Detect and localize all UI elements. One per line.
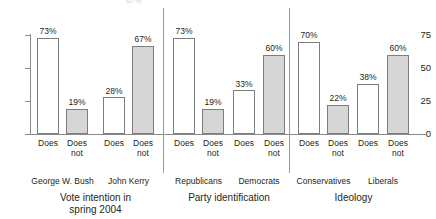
bar[interactable]: [37, 38, 59, 134]
category-label-line2: not: [55, 149, 99, 159]
bar-wrap: 73%: [37, 0, 59, 134]
y-tick-label: 75: [407, 30, 431, 40]
bar-value-label: 60%: [378, 44, 418, 53]
y-tick: [25, 68, 30, 69]
bar-wrap: 67%: [132, 0, 154, 134]
section-label-line1: Ideology: [269, 192, 436, 204]
bar-value-label: 33%: [224, 80, 264, 89]
bar-wrap: 33%: [233, 0, 255, 134]
bar-wrap: 22%: [327, 0, 349, 134]
bar-value-label: 70%: [289, 31, 329, 40]
bar-wrap: 60%: [387, 0, 409, 134]
y-tick-label: 50: [407, 63, 431, 73]
category-label-line2: not: [191, 149, 235, 159]
bar-wrap: 19%: [202, 0, 224, 134]
category-label: Doesnot: [121, 139, 165, 158]
category-label-line2: not: [252, 149, 296, 159]
bar[interactable]: [103, 97, 125, 134]
category-label-line2: not: [121, 149, 165, 159]
bar-value-label: 28%: [94, 87, 134, 96]
bar-wrap: 38%: [357, 0, 379, 134]
bar[interactable]: [202, 109, 224, 134]
bar-value-label: 38%: [348, 73, 388, 82]
group-label: Liberals: [333, 176, 433, 186]
category-label: Doesnot: [376, 139, 420, 158]
section-label-line2: spring 2004: [11, 204, 181, 216]
bar-wrap: 28%: [103, 0, 125, 134]
bar[interactable]: [387, 55, 409, 134]
bar-wrap: 60%: [263, 0, 285, 134]
bar[interactable]: [327, 105, 349, 134]
bar-value-label: 73%: [28, 27, 68, 36]
y-tick: [25, 101, 30, 102]
y-tick-label: 25: [407, 96, 431, 106]
plot-area: 0255075 73%19%28%67%73%19%33%60%70%22%38…: [0, 0, 431, 134]
category-label-line2: not: [316, 149, 360, 159]
y-axis-line: [30, 34, 31, 134]
bar[interactable]: [233, 90, 255, 134]
y-tick: [25, 134, 30, 135]
bar-wrap: 19%: [66, 0, 88, 134]
bar-value-label: 73%: [164, 27, 204, 36]
y-tick-label: 0: [407, 129, 431, 139]
bar-value-label: 19%: [193, 98, 233, 107]
bar[interactable]: [173, 38, 195, 134]
bar-wrap: 70%: [298, 0, 320, 134]
bar[interactable]: [298, 42, 320, 134]
bar-value-label: 19%: [57, 98, 97, 107]
bar[interactable]: [263, 55, 285, 134]
category-label-line2: not: [376, 149, 420, 159]
bar-wrap: 73%: [173, 0, 195, 134]
bar-value-label: 22%: [318, 94, 358, 103]
section-label: Ideology: [269, 192, 436, 204]
bar-value-label: 67%: [123, 35, 163, 44]
bar-value-label: 60%: [254, 44, 294, 53]
bar[interactable]: [132, 46, 154, 134]
x-axis-line: [30, 134, 426, 135]
bar[interactable]: [66, 109, 88, 134]
bar[interactable]: [357, 84, 379, 134]
